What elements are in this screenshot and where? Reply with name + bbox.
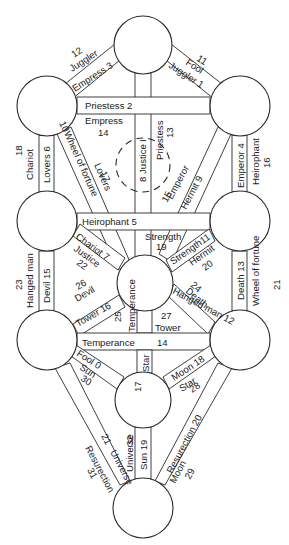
label-13: 13 <box>164 127 175 138</box>
label-temperance-25: Temperance <box>126 279 137 332</box>
sephira-bottom <box>113 478 173 538</box>
label-16: 16 <box>261 157 272 168</box>
label-temperance-14: Temperance <box>82 337 135 348</box>
label-death-13: Death 13 <box>235 261 246 300</box>
sephira-yesod <box>115 372 171 428</box>
label-23: 23 <box>13 279 24 290</box>
sephira-middle-right <box>210 191 270 251</box>
label-lovers-6: Lovers 6 <box>41 146 52 183</box>
label-sun-19: Sun 19 <box>138 440 149 470</box>
sephira-lower-left <box>17 310 77 370</box>
label-19: 19 <box>156 241 167 252</box>
path-center-lower-vertical <box>137 310 152 333</box>
label-27: 27 <box>161 310 172 321</box>
label-8-justice: 8 Justice <box>137 144 148 182</box>
label-25: 25 <box>112 311 123 322</box>
label-17: 17 <box>132 381 143 392</box>
sephira-upper-right <box>210 76 270 136</box>
label-emperor-4: Emperor 4 <box>235 143 246 188</box>
label-heirophant-5: Heirophant 5 <box>82 216 137 227</box>
label-tower-27: Tower <box>155 322 181 333</box>
label-priestess-2: Priestess 2 <box>85 100 132 111</box>
sephira-top <box>114 16 172 74</box>
label-wheel-of-fortune-21: Wheel of fortune <box>250 236 261 306</box>
label-18: 18 <box>13 145 24 156</box>
label-hanged-man-23: Hanged man <box>24 253 35 308</box>
label-justice-marker: I <box>137 139 148 142</box>
label-empress-14-name: Empress <box>85 115 123 126</box>
label-21: 21 <box>271 279 282 290</box>
tree-of-life-diagram: 12 Juggler Empress 3 11 Fool Juggler 1 P… <box>0 0 289 545</box>
label-14-lower: 14 <box>157 337 168 348</box>
label-devil-15: Devil 15 <box>41 268 52 303</box>
sephira-middle-left <box>17 191 77 251</box>
label-priestess-13: Priestess <box>154 120 165 160</box>
label-star-17: Star <box>140 354 151 372</box>
label-chariot-18: Chariot <box>24 149 35 180</box>
label-heirophant-16: Heirophant <box>250 138 261 185</box>
label-empress-14-number: 14 <box>98 127 109 138</box>
